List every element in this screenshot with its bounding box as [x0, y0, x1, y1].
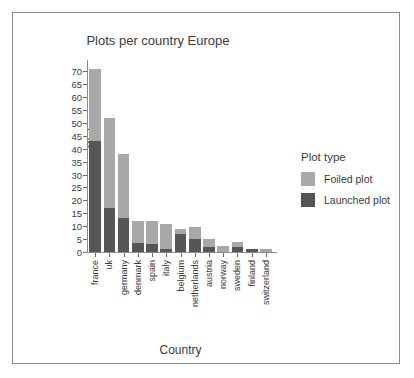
y-tick-mark — [83, 213, 87, 214]
bar-segment-foiled[interactable] — [118, 154, 130, 219]
y-tick-label: 30 — [60, 169, 82, 180]
bar-segment-launched[interactable] — [203, 247, 215, 252]
bar-column[interactable]: denmark — [131, 66, 145, 252]
legend: Plot type Foiled plotLaunched plot — [301, 151, 401, 214]
legend-items: Foiled plotLaunched plot — [301, 172, 401, 207]
x-tick-mark — [237, 253, 238, 257]
bar-column[interactable]: belgium — [173, 66, 187, 252]
y-tick-label: 65 — [60, 79, 82, 90]
x-tick-mark — [124, 253, 125, 257]
y-tick-mark — [83, 84, 87, 85]
x-axis-label: Country — [88, 343, 273, 357]
y-tick-label: 10 — [60, 221, 82, 232]
bar-segment-launched[interactable] — [104, 208, 116, 252]
plot-area: Plots 0510152025303540455055606570 franc… — [88, 66, 273, 252]
bar-segment-foiled[interactable] — [203, 239, 215, 247]
y-tick-label: 25 — [60, 182, 82, 193]
x-tick-label: austria — [204, 260, 214, 287]
bar-segment-launched[interactable] — [246, 249, 258, 252]
stacked-bar[interactable] — [260, 249, 272, 252]
bar-segment-launched[interactable] — [118, 218, 130, 252]
x-tick-label: sweden — [232, 260, 242, 291]
chart-title: Plots per country Europe — [13, 33, 303, 48]
y-tick-label: 50 — [60, 117, 82, 128]
legend-label: Launched plot — [324, 194, 390, 206]
x-tick-mark — [109, 253, 110, 257]
y-tick-mark — [83, 252, 87, 253]
bar-column[interactable]: germany — [116, 66, 130, 252]
bar-segment-foiled[interactable] — [89, 69, 101, 141]
stacked-bar[interactable] — [118, 154, 130, 252]
stacked-bar[interactable] — [203, 239, 215, 252]
stacked-bar[interactable] — [232, 242, 244, 252]
legend-swatch — [301, 172, 315, 186]
bar-column[interactable]: netherlands — [188, 66, 202, 252]
bar-segment-launched[interactable] — [132, 243, 144, 252]
bar-segment-foiled[interactable] — [260, 249, 272, 252]
x-tick-mark — [266, 253, 267, 257]
bar-segment-foiled[interactable] — [132, 221, 144, 243]
x-tick-mark — [152, 253, 153, 257]
y-tick-label: 60 — [60, 92, 82, 103]
stacked-bar[interactable] — [104, 118, 116, 252]
stacked-bar[interactable] — [189, 227, 201, 252]
bar-segment-launched[interactable] — [146, 244, 158, 252]
x-tick-label: finland — [247, 260, 257, 287]
bar-segment-foiled[interactable] — [146, 221, 158, 244]
bar-segment-launched[interactable] — [189, 239, 201, 252]
x-tick-label: denmark — [133, 260, 143, 295]
y-tick-mark — [83, 136, 87, 137]
x-tick-label: belgium — [176, 260, 186, 292]
bar-segment-foiled[interactable] — [160, 224, 172, 250]
legend-item[interactable]: Foiled plot — [301, 172, 401, 186]
y-tick-mark — [83, 110, 87, 111]
y-tick-label: 20 — [60, 195, 82, 206]
x-tick-label: france — [90, 260, 100, 285]
stacked-bar[interactable] — [89, 69, 101, 252]
bar-segment-foiled[interactable] — [104, 118, 116, 208]
y-tick-mark — [83, 71, 87, 72]
y-tick-label: 0 — [60, 247, 82, 258]
x-tick-mark — [181, 253, 182, 257]
x-axis-line — [87, 252, 277, 253]
stacked-bar[interactable] — [146, 221, 158, 252]
y-tick-label: 70 — [60, 66, 82, 77]
bar-column[interactable]: sweden — [230, 66, 244, 252]
bar-segment-launched[interactable] — [232, 247, 244, 252]
chart-frame: Plots per country Europe Plots 051015202… — [12, 12, 400, 364]
bar-segment-launched[interactable] — [175, 234, 187, 252]
x-tick-label: uk — [104, 260, 114, 270]
x-tick-label: norway — [218, 260, 228, 289]
bar-segment-foiled[interactable] — [189, 227, 201, 239]
y-tick-label: 5 — [60, 234, 82, 245]
x-tick-mark — [252, 253, 253, 257]
y-tick-mark — [83, 175, 87, 176]
stacked-bar[interactable] — [132, 221, 144, 252]
x-tick-label: spain — [147, 260, 157, 282]
y-tick-mark — [83, 226, 87, 227]
bar-column[interactable]: spain — [145, 66, 159, 252]
y-tick-label: 15 — [60, 208, 82, 219]
bar-column[interactable]: switzerland — [259, 66, 273, 252]
stacked-bar[interactable] — [246, 249, 258, 252]
legend-item[interactable]: Launched plot — [301, 193, 401, 207]
x-tick-mark — [223, 253, 224, 257]
bar-column[interactable]: austria — [202, 66, 216, 252]
x-tick-label: germany — [119, 260, 129, 295]
bar-column[interactable]: norway — [216, 66, 230, 252]
bar-segment-launched[interactable] — [89, 141, 101, 252]
bar-segment-launched[interactable] — [160, 249, 172, 252]
bar-column[interactable]: italy — [159, 66, 173, 252]
stacked-bar[interactable] — [175, 229, 187, 252]
bar-column[interactable]: finland — [245, 66, 259, 252]
bar-column[interactable]: uk — [102, 66, 116, 252]
bar-segment-foiled[interactable] — [217, 246, 229, 252]
y-tick-label: 45 — [60, 130, 82, 141]
x-tick-mark — [166, 253, 167, 257]
bar-column[interactable]: france — [88, 66, 102, 252]
stacked-bar[interactable] — [160, 224, 172, 252]
y-tick-mark — [83, 200, 87, 201]
y-tick-mark — [83, 239, 87, 240]
y-tick-mark — [83, 123, 87, 124]
stacked-bar[interactable] — [217, 246, 229, 252]
